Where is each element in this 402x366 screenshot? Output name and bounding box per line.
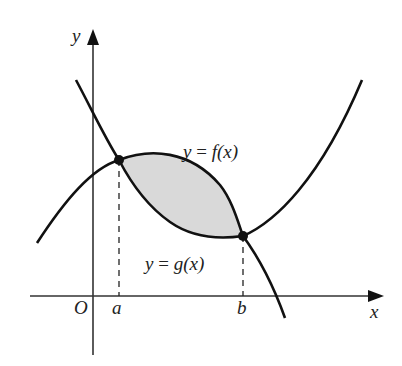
point-a <box>114 155 124 165</box>
f-label: y = f(x) <box>181 141 238 163</box>
point-b <box>238 231 248 241</box>
shaded-region <box>119 153 243 237</box>
y-axis-arrow-icon <box>87 29 99 45</box>
origin-label: O <box>74 297 88 318</box>
diagram-area-between-curves: y x O a b y = f(x) y = g(x) <box>0 0 402 366</box>
y-axis-label: y <box>70 25 81 46</box>
b-label: b <box>237 297 247 318</box>
x-axis-label: x <box>369 301 379 322</box>
g-label: y = g(x) <box>143 253 204 275</box>
a-label: a <box>112 297 122 318</box>
